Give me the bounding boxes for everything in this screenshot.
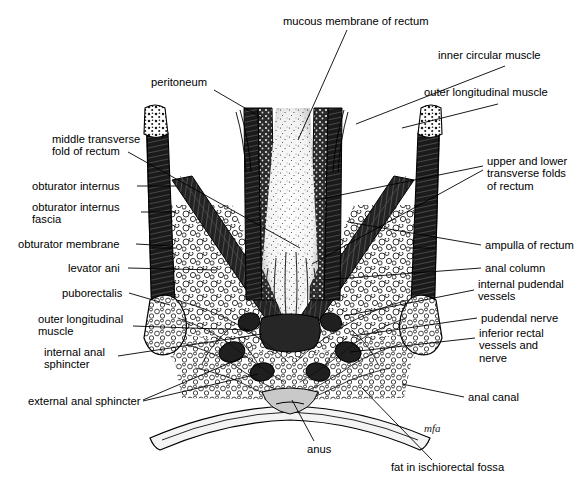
label-obturator-internus: obturator internus [32,180,120,192]
label-internal-anal-sphincter: internal anal sphincter [44,346,105,371]
label-obturator-internus-fascia: obturator internus fascia [32,201,120,226]
label-anus: anus [307,443,331,455]
label-outer-longitudinal-muscle-top: outer longitudinal muscle [424,86,548,98]
label-obturator-membrane: obturator membrane [18,238,119,250]
label-peritoneum: peritoneum [151,76,207,88]
label-external-anal-sphincter: external anal sphincter [28,395,141,407]
label-puborectalis: puborectalis [62,287,122,299]
label-mucous-membrane-of-rectum: mucous membrane of rectum [283,15,429,27]
label-levator-ani: levator ani [68,262,120,274]
artist-signature: mfa [424,422,441,434]
label-middle-transverse-fold-of-rectum: middle transverse fold of rectum [52,133,140,158]
label-anal-canal: anal canal [468,391,519,403]
anatomical-figure: mucous membrane of rectum inner circular… [0,0,579,489]
label-ampulla-of-rectum: ampulla of rectum [485,239,574,251]
label-internal-pudendal-vessels: internal pudendal vessels [478,278,564,303]
label-inner-circular-muscle: inner circular muscle [438,49,541,61]
label-fat-in-ischiorectal-fossa: fat in ischiorectal fossa [391,461,504,473]
label-upper-and-lower-transverse-folds-of-rectum: upper and lower transverse folds of rect… [487,155,567,192]
label-anal-column: anal column [485,262,545,274]
label-pudendal-nerve: pudendal nerve [481,312,558,324]
label-inferior-rectal-vessels-and-nerve: inferior rectal vessels and nerve [479,327,544,364]
label-outer-longitudinal-muscle-left: outer longitudinal muscle [38,313,123,338]
